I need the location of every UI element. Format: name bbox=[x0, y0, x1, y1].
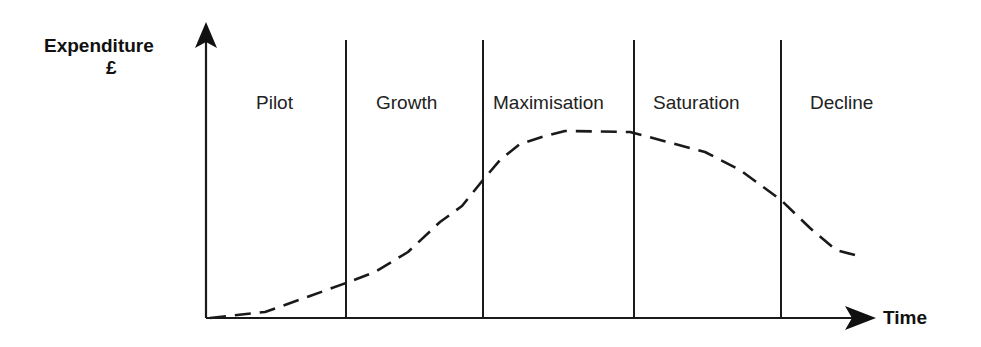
stage-label-decline: Decline bbox=[810, 92, 873, 114]
stage-label-growth: Growth bbox=[376, 92, 437, 114]
y-axis-unit: £ bbox=[106, 57, 117, 79]
x-axis-label: Time bbox=[883, 307, 927, 329]
y-axis-label: Expenditure bbox=[44, 35, 154, 57]
stage-label-saturation: Saturation bbox=[653, 92, 740, 114]
stage-label-maximisation: Maximisation bbox=[493, 92, 604, 114]
stage-label-pilot: Pilot bbox=[256, 92, 293, 114]
expenditure-curve bbox=[210, 131, 862, 318]
